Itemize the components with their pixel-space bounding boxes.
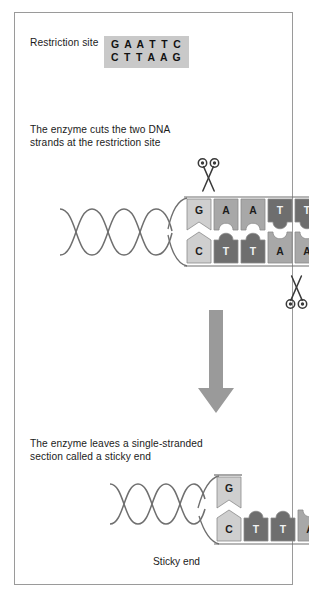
restriction-site-label: Restriction site [30,36,98,49]
restriction-enzyme-diagram: Restriction site G A A T T C C T T A A G… [0,0,309,600]
dna-helix-top [58,203,174,261]
strand-backbone-bottom [214,474,309,546]
scissors-icon-bottom [284,274,309,310]
restriction-site-sequence-box: G A A T T C C T T A A G [104,36,189,68]
restriction-sequence-bottom: C T T A A G [111,52,182,65]
sticky-end-caption: Sticky end [22,556,309,567]
result-step-description: The enzyme leaves a single-stranded sect… [30,437,203,464]
process-arrow-icon [196,310,236,415]
cut-step-description: The enzyme cuts the two DNA strands at t… [30,123,170,150]
restriction-sequence-top: G A A T T C [111,39,182,52]
strand-backbone-top [184,196,309,268]
scissors-icon-top [196,158,222,194]
dna-helix-bottom [108,478,206,530]
